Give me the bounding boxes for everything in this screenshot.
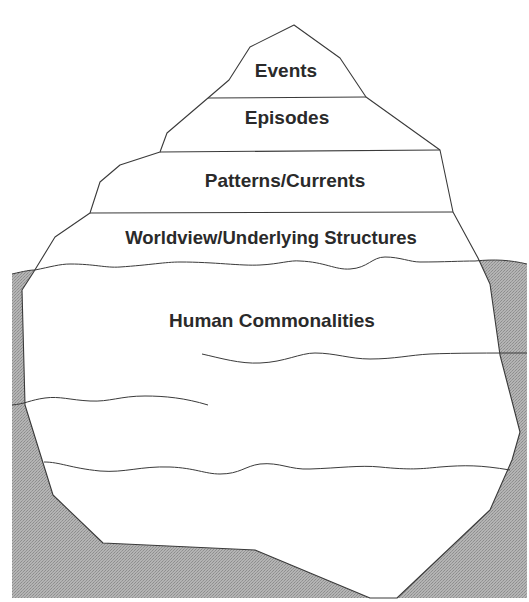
iceberg-diagram [0, 0, 529, 602]
layer-label-human-commonalities: Human Commonalities [169, 310, 375, 332]
layer-label-worldview: Worldview/Underlying Structures [125, 227, 417, 249]
layer-label-patterns: Patterns/Currents [205, 170, 366, 192]
layer-label-events: Events [255, 60, 317, 82]
layer-label-episodes: Episodes [245, 107, 329, 129]
